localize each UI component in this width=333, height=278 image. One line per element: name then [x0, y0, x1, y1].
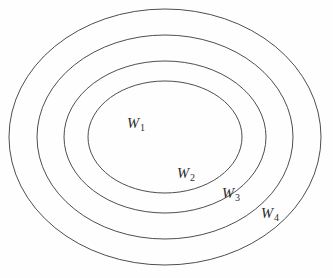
label-w1: W1 — [127, 116, 145, 133]
label-w1-subscript: 1 — [140, 121, 145, 132]
ellipse-w4 — [9, 9, 321, 265]
label-w1-base: W — [127, 115, 139, 131]
ellipse-canvas — [0, 0, 333, 278]
ellipse-w1 — [88, 81, 242, 193]
label-w4-base: W — [261, 205, 273, 221]
label-w2-subscript: 2 — [190, 171, 195, 182]
nested-ellipse-diagram: W1 W2 W3 W4 — [0, 0, 333, 278]
label-w3-base: W — [222, 185, 234, 201]
label-w2: W2 — [177, 166, 195, 183]
label-w2-base: W — [177, 165, 189, 181]
label-w4-subscript: 4 — [274, 211, 279, 222]
label-w4: W4 — [261, 206, 279, 223]
label-w3-subscript: 3 — [235, 191, 240, 202]
ellipse-w3 — [37, 35, 293, 239]
label-w3: W3 — [222, 186, 240, 203]
